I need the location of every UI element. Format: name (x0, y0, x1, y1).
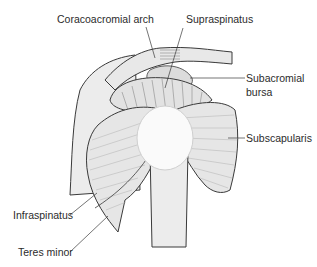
label-subacromial-bursa-1: Subacromial (246, 72, 304, 84)
label-supraspinatus: Supraspinatus (186, 13, 253, 25)
label-coracoacromial-arch: Coracoacromial arch (57, 13, 154, 25)
leader-teres-minor (70, 216, 108, 252)
humeral-head (137, 106, 193, 170)
label-teres-minor: Teres minor (18, 246, 73, 258)
leader-infraspinatus (70, 193, 97, 215)
label-subscapularis: Subscapularis (246, 132, 312, 144)
label-infraspinatus: Infraspinatus (13, 209, 73, 221)
label-subacromial-bursa-2: bursa (246, 86, 272, 98)
